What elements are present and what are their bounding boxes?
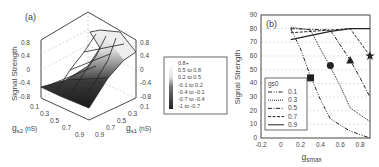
z-axis-ticks-left: 0.8 0.4 0 -0.4 -0.8 [19,39,31,100]
legend-entry: 0.1 [288,88,297,95]
circle-marker [327,62,334,69]
svg-text:0.1: 0.1 [30,103,39,110]
x-axis-label: gsmax [302,152,323,163]
y-tick-label: 0 [253,134,257,141]
legend-entry: -0.4 to -0.1 [178,89,205,95]
svg-text:gs0: gs0 [268,80,279,88]
y-tick-label: 10 [250,120,258,127]
y-tick-label: 80 [250,25,258,32]
legend-entry: 0.7 [288,113,297,120]
y-tick-label: 90 [250,11,258,18]
series-line-0.9 [291,29,370,40]
legend-entry: 0.8+ [178,60,189,66]
y-tick-label: 60 [250,52,258,59]
x-tick-label: 0 [279,141,283,148]
svg-text:0.7: 0.7 [106,124,115,131]
legend-entry: 0.9 [288,121,297,128]
svg-text:0.8: 0.8 [21,39,30,46]
legend-entry: -0.1 to 0.2 [178,82,203,88]
svg-text:0.4: 0.4 [21,52,30,59]
legend-entry: 0.2 to 0.5 [178,74,201,80]
y-tick-label: 40 [250,79,258,86]
x-tick-label: -0.2 [255,141,267,148]
legend-entry: -1 to -0.7 [178,103,200,109]
svg-text:0.3: 0.3 [128,110,137,117]
y-tick-label: 30 [250,93,258,100]
x-tick-label: 0.8 [356,141,365,148]
svg-text:0.8: 0.8 [140,39,149,46]
x-tick-label: 0.4 [316,141,325,148]
panel-a-surface-plot: 0.8 0.4 0 -0.4 -0.8 0.8 0.4 0 -0.4 -0.8 … [0,0,235,167]
y-axis-ticks-gs1: 0.1 0.3 0.5 0.7 0.9 [95,103,149,138]
x-axis-label-gs2: gs2 (nS) [12,123,37,134]
svg-text:-0.8: -0.8 [140,93,152,100]
svg-text:-0.4: -0.4 [140,79,152,86]
triangle-marker [346,56,354,64]
surface-plot-svg: 0.8 0.4 0 -0.4 -0.8 0.8 0.4 0 -0.4 -0.8 … [0,0,235,167]
legend-entry: 0.5 to 0.8 [178,67,201,73]
panel-b-label: (b) [266,19,277,29]
y-tick-label: 20 [250,107,258,114]
legend-entry: 0.3 [288,96,297,103]
y-axis-label-gs1: gs1 (nS) [126,123,151,134]
z-axis-ticks-right: 0.8 0.4 0 -0.4 -0.8 [140,39,152,100]
svg-text:-0.8: -0.8 [19,93,31,100]
colorbar-legend: 0.8+0.5 to 0.80.2 to 0.5-0.1 to 0.2-0.4 … [164,57,227,114]
legend-entry: -0.7 to -0.4 [178,96,205,102]
svg-text:0.5: 0.5 [50,117,59,124]
svg-text:0: 0 [26,66,30,73]
svg-text:0.1: 0.1 [140,103,149,110]
x-axis-ticks-gs2: 0.1 0.3 0.5 0.7 0.9 [30,103,84,138]
svg-text:0: 0 [140,66,144,73]
square-marker [307,74,314,81]
svg-text:0.3: 0.3 [40,110,49,117]
panel-a-label: (a) [25,12,36,22]
svg-text:0.5: 0.5 [117,117,126,124]
svg-text:0.4: 0.4 [140,52,149,59]
svg-text:-0.4: -0.4 [19,79,31,86]
legend-entry: 0.5 [288,104,297,111]
series-legend: gs00.10.30.50.70.9 [265,78,307,130]
svg-text:0.9: 0.9 [95,131,104,138]
z-axis-label: Signal Strength [10,46,19,101]
line-chart-svg: 0102030405060708090-0.200.20.40.60.8Sign… [230,0,379,167]
x-tick-label: 0.6 [336,141,345,148]
svg-text:0.9: 0.9 [75,131,84,138]
y-tick-label: 50 [250,66,258,73]
y-axis-label: Signal Strength [233,50,242,105]
y-tick-label: 70 [250,38,258,45]
x-tick-label: 0.2 [296,141,305,148]
svg-text:0.7: 0.7 [62,124,71,131]
panel-b-line-chart: 0102030405060708090-0.200.20.40.60.8Sign… [230,0,379,167]
surface-mesh [41,30,136,108]
